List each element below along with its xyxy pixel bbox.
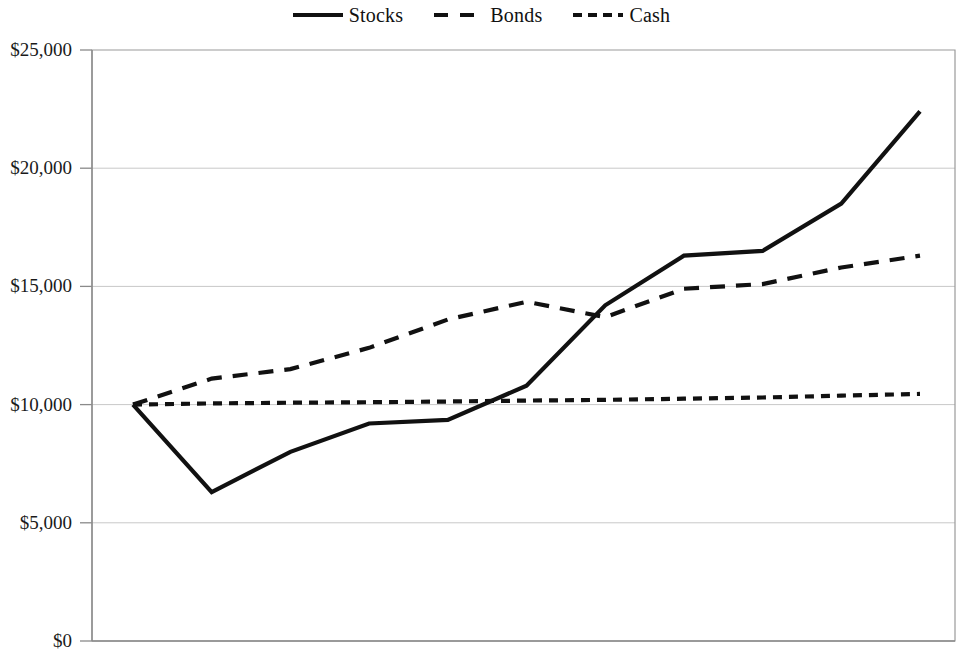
investment-growth-chart: Stocks Bonds Cash $0$5,000$10,000$15,000… (0, 0, 962, 655)
y-axis-tick-label: $20,000 (10, 157, 72, 178)
y-axis-tick-label: $25,000 (10, 39, 72, 60)
plot-frame (92, 50, 955, 641)
series-line-cash (133, 394, 920, 405)
plot-area: $0$5,000$10,000$15,000$20,000$25,000 (0, 0, 962, 655)
y-axis-tick-label: $10,000 (10, 394, 72, 415)
y-axis-tick-label: $0 (53, 630, 72, 651)
y-axis-tick-label: $15,000 (10, 275, 72, 296)
y-axis-tick-marks (80, 50, 92, 641)
gridlines (92, 168, 955, 523)
y-axis-tick-label: $5,000 (20, 512, 72, 533)
series-line-bonds (133, 256, 920, 405)
y-axis-tick-labels: $0$5,000$10,000$15,000$20,000$25,000 (10, 39, 72, 651)
